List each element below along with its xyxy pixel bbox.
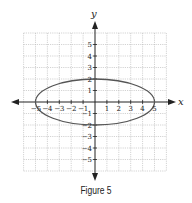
- x-axis-right-arrow-icon: [168, 99, 176, 105]
- y-tick-label: 5: [88, 41, 92, 49]
- y-tick-label: 4: [88, 53, 93, 61]
- x-tick-label: −3: [54, 105, 64, 113]
- y-axis-up-arrow-icon: [92, 21, 98, 29]
- x-tick-label: −5: [31, 105, 41, 113]
- y-tick-label: −1: [82, 110, 92, 118]
- x-tick-label: 1: [105, 105, 109, 113]
- x-axis-left-arrow-icon: [11, 99, 19, 105]
- y-tick-label: −5: [82, 156, 92, 164]
- axes: [16, 26, 171, 176]
- y-tick-label: −4: [82, 145, 93, 153]
- x-tick-labels: −5 −4 −3 −2 −1 1 2 3 4 5: [31, 105, 157, 113]
- y-tick-label: 3: [88, 64, 92, 72]
- x-tick-label: 2: [117, 105, 121, 113]
- x-tick-label: −2: [66, 105, 76, 113]
- y-tick-label: −3: [82, 133, 92, 141]
- x-tick-label: 3: [128, 105, 132, 113]
- x-tick-label: −4: [42, 105, 53, 113]
- y-axis-down-arrow-icon: [92, 173, 98, 181]
- ellipse-graph: −5 −4 −3 −2 −1 1 2 3 4 5 5 4 3 2 1 −1 −2…: [0, 0, 192, 203]
- figure-caption: Figure 5: [14, 185, 177, 196]
- y-axis-label: y: [90, 8, 97, 19]
- x-axis-label: x: [178, 96, 184, 107]
- x-tick-label: 5: [152, 105, 156, 113]
- y-tick-label: −2: [82, 122, 92, 130]
- y-tick-label: 2: [88, 76, 92, 84]
- y-tick-label: 1: [88, 87, 92, 95]
- x-tick-label: 4: [140, 105, 145, 113]
